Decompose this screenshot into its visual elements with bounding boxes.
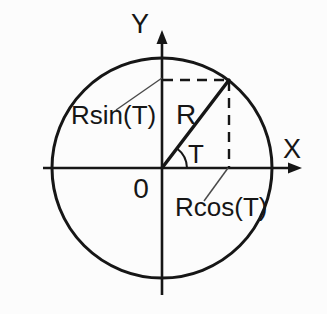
y-axis-label: Y — [131, 9, 149, 39]
origin-label: 0 — [133, 173, 149, 204]
rsin-label: Rsin(T) — [71, 100, 156, 130]
radius-label: R — [176, 99, 196, 130]
x-axis-label: X — [283, 134, 301, 164]
x-axis — [43, 163, 302, 174]
y-axis-arrowhead — [157, 30, 168, 44]
x-axis-arrowhead — [288, 163, 302, 174]
figure-canvas: Y X 0 R T Rsin(T) Rcos(T) — [0, 0, 327, 314]
angle-arc — [177, 149, 187, 169]
trigonometry-figure: Y X 0 R T Rsin(T) Rcos(T) — [0, 0, 327, 314]
rcos-label: Rcos(T) — [175, 192, 267, 222]
angle-label: T — [188, 139, 204, 169]
